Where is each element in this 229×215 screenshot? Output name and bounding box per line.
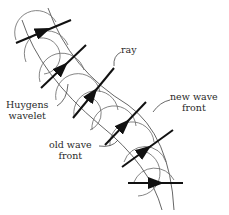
huygens-label-line2: wavelet (6, 110, 48, 121)
old-wave-front-label-line1: old wave (49, 139, 92, 150)
huygens-leader (57, 84, 68, 106)
new-wave-front-label-line1: new wave (170, 91, 218, 102)
huygens-wavelet-label: Huygens wavelet (6, 99, 48, 121)
new-wave-front-label-line2: front (170, 102, 218, 113)
huygens-label-line1: Huygens (6, 99, 48, 110)
ray-label: ray (121, 44, 137, 55)
old-wave-front-label-line2: front (49, 150, 92, 161)
new-wave-front-label: new wave front (170, 91, 218, 113)
new-front-leader (153, 100, 170, 112)
ray-leader (114, 52, 121, 66)
ray-label-text: ray (121, 44, 137, 55)
old-wave-front-label: old wave front (49, 139, 92, 161)
